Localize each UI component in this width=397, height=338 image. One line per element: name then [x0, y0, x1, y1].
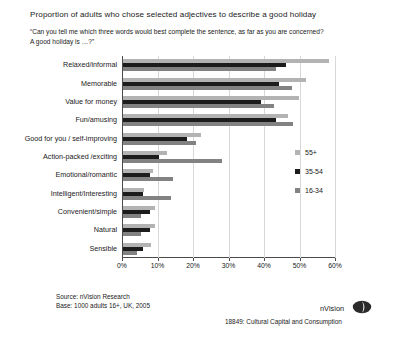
- x-tick-label: 30%: [222, 262, 236, 269]
- category-label: Sensible: [89, 245, 117, 253]
- category-label: Good for you / self-improving: [25, 135, 117, 143]
- category-label: Convenient/simple: [58, 208, 117, 216]
- x-axis-tick: [158, 258, 159, 261]
- bar-group: [123, 129, 335, 147]
- chart-subtitle-line-1: “Can you tell me which three words would…: [30, 27, 360, 37]
- category-label: Relaxed/informal: [63, 61, 117, 69]
- legend-item[interactable]: 16-34: [295, 187, 365, 206]
- legend-swatch-icon: [295, 188, 300, 193]
- chart-legend: 55+35-5416-34: [295, 149, 365, 206]
- bar-16-34: [123, 232, 141, 236]
- category-label: Intelligent/Interesting: [51, 190, 117, 198]
- legend-label: 35-54: [305, 168, 323, 176]
- bar-16-34: [123, 67, 276, 71]
- bar-group: [123, 93, 335, 111]
- legend-swatch-icon: [295, 150, 300, 155]
- base-line: Base: 1000 adults 16+, UK, 2005: [56, 301, 150, 310]
- category-label: Fun/amusing: [75, 116, 117, 124]
- report-reference: 18849: Cultural Capital and Consumption: [225, 318, 342, 325]
- bar-16-34: [123, 141, 196, 145]
- legend-label: 55+: [305, 149, 317, 157]
- x-axis-tick: [229, 258, 230, 261]
- source-line: Source: nVision Research: [56, 292, 150, 301]
- x-tick-label: 60%: [328, 262, 342, 269]
- x-axis-tick: [335, 258, 336, 261]
- bar-16-34: [123, 159, 222, 163]
- source-note: Source: nVision Research Base: 1000 adul…: [56, 292, 150, 310]
- x-tick-label: 10%: [151, 262, 165, 269]
- bar-16-34: [123, 177, 173, 181]
- category-label: Natural: [94, 226, 117, 234]
- legend-label: 16-34: [305, 187, 323, 195]
- brand-name: nVision: [320, 304, 344, 313]
- legend-swatch-icon: [295, 169, 300, 174]
- bar-group: [123, 221, 335, 239]
- bar-group: [123, 240, 335, 258]
- bar-group: [123, 56, 335, 74]
- bar-16-34: [123, 86, 292, 90]
- x-tick-label: 0%: [117, 262, 127, 269]
- bar-16-34: [123, 104, 274, 108]
- x-axis-tick: [122, 258, 123, 261]
- x-tick-label: 50%: [293, 262, 307, 269]
- category-label: Memorable: [81, 80, 117, 88]
- bar-16-34: [123, 122, 293, 126]
- x-axis-tick-labels: 0%10%20%30%40%50%60%: [122, 262, 342, 274]
- bar-16-34: [123, 251, 137, 255]
- x-axis-tick: [193, 258, 194, 261]
- bar-16-34: [123, 196, 171, 200]
- chart-title: Proportion of adults who chose selected …: [30, 10, 316, 19]
- x-axis-tick: [264, 258, 265, 261]
- category-label: Emotional/romantic: [55, 171, 117, 179]
- legend-item[interactable]: 55+: [295, 149, 365, 168]
- legend-item[interactable]: 35-54: [295, 168, 365, 187]
- x-tick-label: 40%: [257, 262, 271, 269]
- nvision-logo-icon: [352, 300, 372, 314]
- category-label: Action-packed /exciting: [43, 153, 117, 161]
- x-axis-tick: [300, 258, 301, 261]
- bar-group: [123, 74, 335, 92]
- chart-subtitle: “Can you tell me which three words would…: [30, 27, 360, 46]
- x-tick-label: 20%: [186, 262, 200, 269]
- bar-16-34: [123, 214, 141, 218]
- category-label: Value for money: [65, 98, 117, 106]
- chart-subtitle-line-2: A good holiday is …?”: [30, 37, 360, 47]
- chart-page: Proportion of adults who chose selected …: [0, 0, 397, 338]
- bar-group: [123, 111, 335, 129]
